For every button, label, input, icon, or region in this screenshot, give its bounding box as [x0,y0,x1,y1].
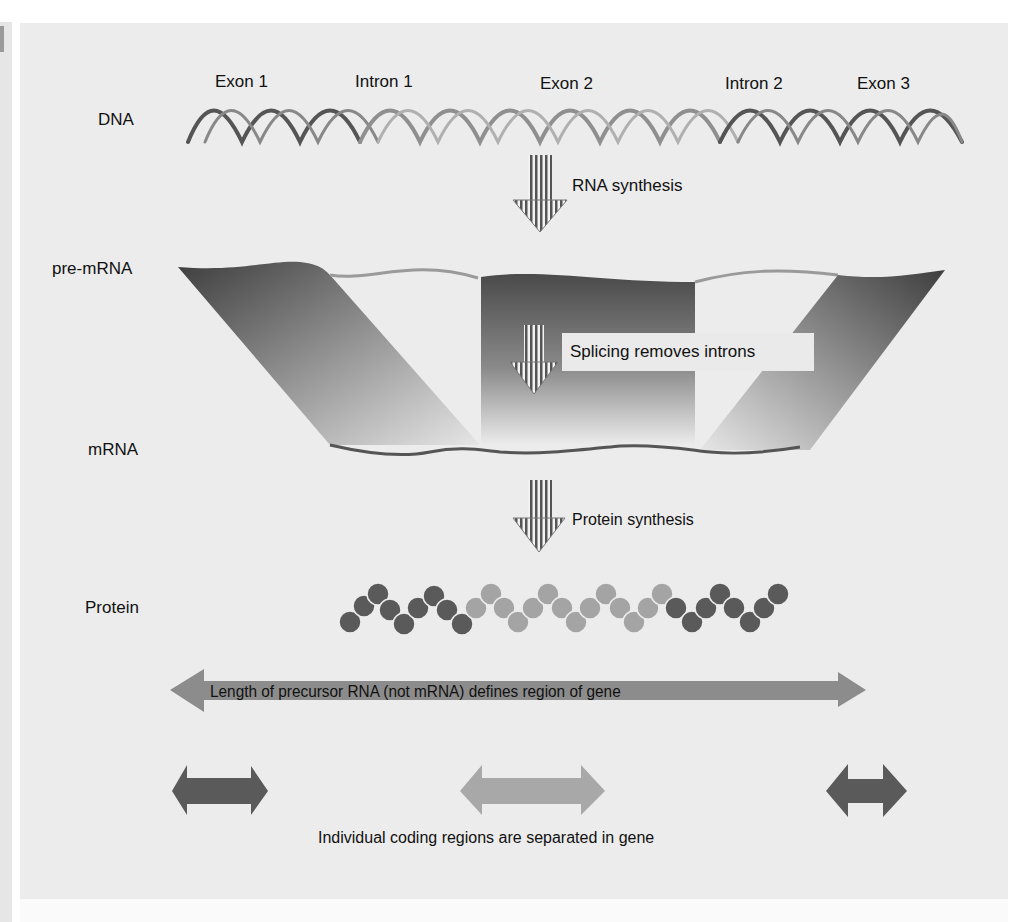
segment-label-exon3: Exon 3 [857,74,910,94]
row-label-protein: Protein [85,598,139,618]
dna-helix [188,111,962,143]
segment-label-intron2: Intron 2 [725,74,783,94]
step-label-rna-synthesis: RNA synthesis [572,176,683,196]
protein-synthesis-arrow-icon [513,480,565,552]
exon1-coding-arrow-icon [172,765,268,815]
row-label-pre-mrna: pre-mRNA [52,259,132,279]
step-label-protein-synthesis: Protein synthesis [572,511,694,529]
step-label-splicing: Splicing removes introns [570,342,755,362]
splicing-label-box: Splicing removes introns [562,333,814,371]
protein-chain [339,583,789,635]
row-label-dna: DNA [98,110,134,130]
segment-label-intron1: Intron 1 [355,72,413,92]
exon2-coding-arrow-icon [460,765,605,815]
segment-label-exon2: Exon 2 [540,74,593,94]
gene-region-annotation: Length of precursor RNA (not mRNA) defin… [210,683,805,701]
coding-regions-annotation: Individual coding regions are separated … [318,829,654,847]
row-label-mrna: mRNA [88,440,138,460]
gene-diagram-graphics [0,0,1021,922]
rna-synthesis-arrow-icon [513,155,567,232]
segment-label-exon1: Exon 1 [215,72,268,92]
exon3-coding-arrow-icon [826,764,907,817]
